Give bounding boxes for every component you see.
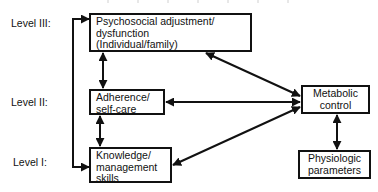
- knowledge-metabolic-arrow: [173, 107, 300, 165]
- diagram-canvas: Level III: Level II: Level I: P: [0, 0, 378, 192]
- node-physiologic: Physiologic parameters: [298, 150, 371, 179]
- node-psychosocial: Psychosocial adjustment/ dysfunction (In…: [89, 13, 252, 52]
- left-feedback-loop: [73, 19, 88, 167]
- psychosocial-metabolic-arrow: [206, 53, 300, 96]
- node-adherence: Adherence/ self-care: [89, 89, 165, 115]
- node-metabolic: Metabolic control: [301, 85, 370, 114]
- node-knowledge: Knowledge/ management skills: [89, 147, 172, 183]
